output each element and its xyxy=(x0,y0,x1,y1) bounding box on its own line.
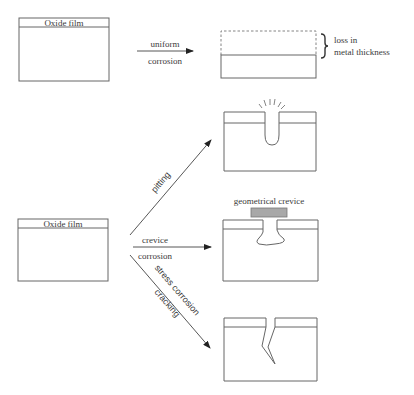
scc-arrow: stress corrosion cracking xyxy=(130,255,210,348)
uniform-label: uniform xyxy=(151,39,180,49)
corrosion-label: corrosion xyxy=(148,56,182,66)
corrosion-diagram: Oxide film uniform corrosion loss in met… xyxy=(0,0,414,395)
stress-crack xyxy=(262,318,275,364)
uniform-corrosion-arrow: uniform corrosion xyxy=(137,39,193,66)
loss-in-label: loss in xyxy=(334,35,358,45)
uniform-result-box: loss in metal thickness xyxy=(221,31,390,78)
corrosion-label: corrosion xyxy=(138,251,172,261)
oxide-film-label: Oxide film xyxy=(43,219,82,229)
crevice-cavity xyxy=(257,220,284,245)
crevice-label: crevice xyxy=(142,235,168,245)
oxide-film-label: Oxide film xyxy=(44,18,83,28)
pitting-result-box xyxy=(224,99,316,171)
pitting-label: pitting xyxy=(149,170,172,195)
crevice-result-box: geometrical crevice xyxy=(223,196,318,281)
start-box-top: Oxide film xyxy=(19,18,109,82)
start-box-bottom: Oxide film xyxy=(18,219,108,282)
pit-spark-icon xyxy=(259,99,285,109)
crevice-corrosion-arrow: crevice corrosion xyxy=(133,235,211,261)
geometrical-crevice-label: geometrical crevice xyxy=(234,196,305,206)
brace-icon xyxy=(321,34,328,58)
crevice-shim xyxy=(251,208,287,217)
metal-thickness-label: metal thickness xyxy=(334,47,390,57)
scc-result-box xyxy=(224,318,317,381)
pit xyxy=(265,112,279,145)
pitting-arrow: pitting xyxy=(130,140,211,235)
